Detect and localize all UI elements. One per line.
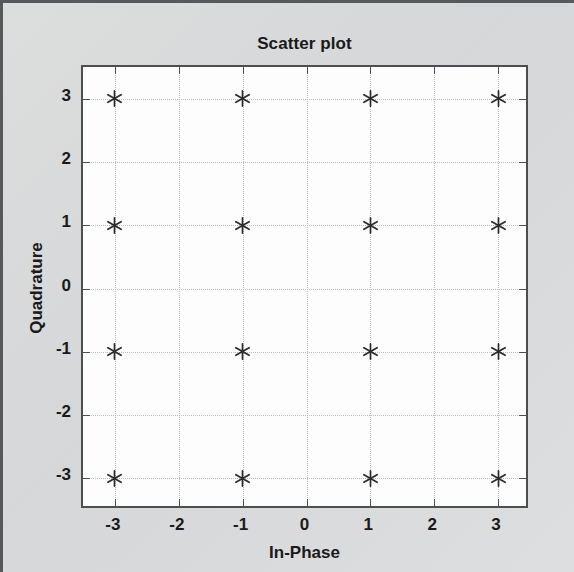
scatter-point-marker: [106, 343, 123, 360]
x-tick-label: -3: [90, 515, 136, 535]
x-axis-tick: [243, 499, 244, 506]
gridline-vertical: [498, 67, 499, 506]
x-axis-tick: [434, 67, 435, 74]
y-tick-label: 1: [31, 212, 71, 232]
scatter-point-marker: [234, 90, 251, 107]
y-axis-tick: [519, 415, 526, 416]
x-tick-label: 2: [409, 515, 455, 535]
scatter-point-marker: [362, 217, 379, 234]
gridline-vertical: [243, 67, 244, 506]
scatter-point-marker: [106, 90, 123, 107]
y-axis-tick: [519, 352, 526, 353]
gridline-horizontal: [83, 478, 526, 479]
gridline-horizontal: [83, 289, 526, 290]
y-axis-tick: [83, 352, 90, 353]
x-axis-tick: [498, 67, 499, 74]
gridline-vertical: [307, 67, 308, 506]
y-tick-label: -1: [31, 339, 71, 359]
x-axis-tick: [498, 499, 499, 506]
y-axis-tick: [83, 478, 90, 479]
y-axis-tick: [83, 99, 90, 100]
gridline-horizontal: [83, 225, 526, 226]
scatter-point-marker: [106, 470, 123, 487]
y-tick-label: 0: [31, 276, 71, 296]
scatter-point-marker: [106, 217, 123, 234]
scatter-point-marker: [362, 470, 379, 487]
x-axis-tick: [307, 499, 308, 506]
gridline-horizontal: [83, 415, 526, 416]
scatter-point-marker: [362, 343, 379, 360]
gridline-horizontal: [83, 352, 526, 353]
gridline-vertical: [115, 67, 116, 506]
x-axis-tick: [434, 499, 435, 506]
x-axis-tick: [179, 499, 180, 506]
y-axis-tick: [83, 289, 90, 290]
gridline-horizontal: [83, 162, 526, 163]
x-axis-label: In-Phase: [81, 543, 528, 563]
y-axis-tick: [519, 289, 526, 290]
gridline-vertical: [179, 67, 180, 506]
scatter-point-marker: [490, 217, 507, 234]
scatter-point-marker: [490, 90, 507, 107]
x-axis-tick: [370, 499, 371, 506]
x-axis-tick: [115, 499, 116, 506]
x-axis-tick: [307, 67, 308, 74]
scatter-point-marker: [234, 343, 251, 360]
y-axis-tick: [83, 162, 90, 163]
y-axis-tick: [519, 225, 526, 226]
x-axis-tick: [370, 67, 371, 74]
plot-area: [83, 67, 526, 506]
y-tick-label: -3: [31, 465, 71, 485]
y-axis-tick: [519, 99, 526, 100]
x-axis-tick: [179, 67, 180, 74]
y-axis-tick: [519, 162, 526, 163]
y-tick-label: -2: [31, 402, 71, 422]
scatter-point-marker: [490, 470, 507, 487]
x-tick-label: 0: [282, 515, 328, 535]
plot-box: [81, 65, 528, 508]
x-tick-label: -2: [154, 515, 200, 535]
y-tick-label: 3: [31, 86, 71, 106]
y-axis-tick: [83, 415, 90, 416]
scatter-point-marker: [234, 217, 251, 234]
gridline-vertical: [370, 67, 371, 506]
x-axis-tick: [115, 67, 116, 74]
y-axis-tick: [83, 225, 90, 226]
scatter-point-marker: [490, 343, 507, 360]
y-tick-label: 2: [31, 149, 71, 169]
chart-title: Scatter plot: [81, 34, 528, 54]
x-tick-label: 1: [345, 515, 391, 535]
scatter-point-marker: [362, 90, 379, 107]
x-axis-tick: [243, 67, 244, 74]
x-tick-label: -1: [218, 515, 264, 535]
scatter-point-marker: [234, 470, 251, 487]
x-tick-label: 3: [473, 515, 519, 535]
y-axis-tick: [519, 478, 526, 479]
gridline-vertical: [434, 67, 435, 506]
figure-root: Scatter plot Quadrature -3-2-10123 -3-2-…: [0, 0, 574, 572]
gridline-horizontal: [83, 99, 526, 100]
